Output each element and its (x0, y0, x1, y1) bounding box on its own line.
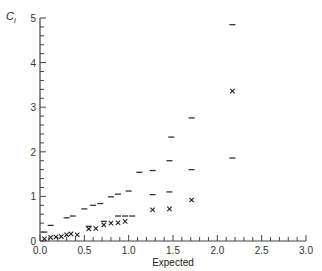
x-tick-label: 2.5 (255, 245, 269, 256)
cross-marker (123, 219, 127, 223)
axes (40, 18, 306, 241)
x-axis-title: Expected (152, 257, 194, 268)
cross-marker (189, 198, 193, 202)
y-axis-title-subscript: i (14, 16, 16, 25)
cross-marker (102, 223, 106, 227)
x-tick-label: 1.5 (166, 245, 180, 256)
cross-marker (109, 221, 113, 225)
cross-marker (150, 208, 154, 212)
x-tick-label: 0.5 (77, 245, 91, 256)
x-tick-label: 1.0 (122, 245, 136, 256)
x-tick-label: 3.0 (299, 245, 313, 256)
y-tick-label: 5 (30, 13, 36, 24)
x-tick-label: 0.0 (33, 245, 47, 256)
x-tick-label: 2.0 (210, 245, 224, 256)
cross-marker (94, 226, 98, 230)
cross-marker (230, 89, 234, 93)
cross-marker (42, 237, 46, 241)
axis-ticks: 0123450.00.51.01.52.02.53.0 (30, 13, 313, 256)
cross-marker (69, 232, 73, 236)
data-points (41, 25, 235, 241)
scatter-chart: 0123450.00.51.01.52.02.53.0 Ci Expected (0, 0, 322, 271)
cross-marker (75, 233, 79, 237)
y-tick-label: 2 (30, 147, 36, 158)
y-tick-label: 4 (30, 58, 36, 69)
cross-marker (116, 221, 120, 225)
y-tick-label: 1 (30, 191, 36, 202)
y-axis-title: Ci (6, 10, 16, 25)
cross-marker (64, 233, 68, 237)
y-tick-label: 3 (30, 102, 36, 113)
cross-marker (59, 234, 63, 238)
cross-marker (54, 235, 58, 239)
cross-marker (167, 207, 171, 211)
cross-marker (87, 227, 91, 231)
